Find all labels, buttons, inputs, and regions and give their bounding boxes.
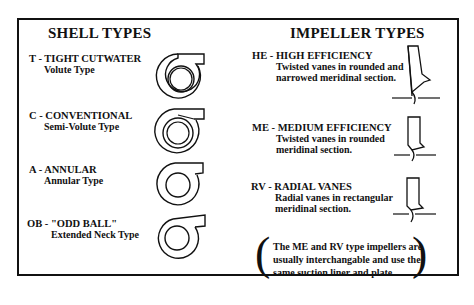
note-line3: same suction liner and plate [273,266,422,279]
shell-desc: Annular Type [44,175,103,186]
shell-desc: Extended Neck Type [51,229,139,240]
radial-vane-impeller-icon [393,176,449,226]
impeller-code: RV - RADIAL VANES [251,181,393,192]
shell-item-odd-ball: OB - "ODD BALL" Extended Neck Type [27,218,139,240]
note-close-paren: ) [412,231,427,277]
annular-shell-icon [157,161,205,205]
note-line1: The ME and RV type impellers are [273,240,422,253]
shell-desc: Semi-Volute Type [44,121,132,132]
volute-shell-icon [158,52,206,98]
shell-code: A - ANNULAR [29,164,103,175]
shell-item-tight-cutwater: T - TIGHT CUTWATER Volute Type [29,53,141,75]
shell-desc: Volute Type [44,64,141,75]
impeller-desc-line1: Twisted vanes in rounded and [276,61,403,72]
impeller-item-radial-vanes: RV - RADIAL VANES Radial vanes in rectan… [251,181,393,214]
extended-neck-shell-icon [157,213,207,257]
impeller-desc-line2: meridinal section. [275,203,393,214]
impeller-item-high-efficiency: HE - HIGH EFFICIENCY Twisted vanes in ro… [252,50,403,83]
impeller-note: The ME and RV type impellers are usually… [273,240,422,279]
note-open-paren: ( [255,231,270,277]
impeller-desc-line2: narrowed meridinal section. [276,72,403,83]
shell-code: OB - "ODD BALL" [27,218,139,229]
shell-item-conventional: C - CONVENTIONAL Semi-Volute Type [29,110,132,132]
shell-code: C - CONVENTIONAL [29,110,132,121]
impeller-item-medium-efficiency: ME - MEDIUM EFFICIENCY Twisted vanes in … [252,122,392,155]
shell-code: T - TIGHT CUTWATER [29,53,141,64]
impeller-code: HE - HIGH EFFICIENCY [252,50,403,61]
impeller-desc-line1: Twisted vanes in rounded [276,133,392,144]
medium-efficiency-impeller-icon [394,115,450,163]
impeller-code: ME - MEDIUM EFFICIENCY [252,122,392,133]
impeller-desc-line2: meridinal section. [276,144,392,155]
impeller-types-title: IMPELLER TYPES [290,25,425,42]
note-line2: usually interchangable and use the [273,253,422,266]
high-efficiency-impeller-icon [390,44,450,108]
impeller-desc-line1: Radial vanes in rectangular [275,192,393,203]
shell-types-title: SHELL TYPES [48,25,151,42]
shell-item-annular: A - ANNULAR Annular Type [29,164,103,186]
semi-volute-shell-icon [156,107,206,153]
